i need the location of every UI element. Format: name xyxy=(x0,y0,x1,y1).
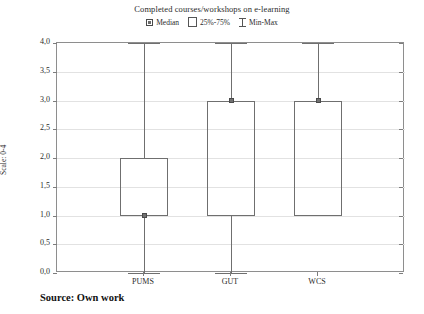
whisker-cap-max xyxy=(302,43,334,44)
median-marker-gut xyxy=(229,98,234,103)
whisker-upper xyxy=(144,43,145,158)
y-axis-title: Scale: 0-4 xyxy=(0,145,8,175)
y-axis-tick-right xyxy=(399,244,403,245)
y-axis-tick xyxy=(53,244,57,245)
y-axis-tick-right xyxy=(399,158,403,159)
whisker-lower xyxy=(144,216,145,274)
legend-label-minmax: Min-Max xyxy=(249,18,278,27)
whisker-ibeam-icon xyxy=(239,18,246,27)
y-axis-tick-right xyxy=(399,72,403,73)
y-axis-tick-label: 3,0 xyxy=(24,96,50,104)
figure-container: Completed courses/workshops on e-learnin… xyxy=(0,0,424,314)
whisker-cap-min xyxy=(215,273,247,274)
y-axis-tick xyxy=(53,158,57,159)
x-axis-tick xyxy=(230,272,231,276)
chart-title: Completed courses/workshops on e-learnin… xyxy=(0,4,424,14)
x-axis-tick xyxy=(317,272,318,276)
y-axis-tick xyxy=(53,129,57,130)
box-rectangle-icon xyxy=(188,17,197,27)
y-axis-tick-right xyxy=(399,129,403,130)
y-axis-tick-right xyxy=(399,43,403,44)
x-axis-tick xyxy=(143,272,144,276)
box-gut xyxy=(207,101,255,216)
median-marker-icon xyxy=(146,19,153,26)
whisker-cap-min xyxy=(128,273,160,274)
whisker-cap-max xyxy=(215,43,247,44)
y-axis-tick-label: 1,0 xyxy=(24,211,50,219)
chart-legend: Median 25%-75% Min-Max xyxy=(0,17,424,27)
whisker-lower xyxy=(231,216,232,274)
plot-area xyxy=(56,42,404,272)
y-axis-tick xyxy=(53,72,57,73)
y-axis-tick xyxy=(53,273,57,274)
whisker-upper xyxy=(231,43,232,101)
legend-label-quartiles: 25%-75% xyxy=(200,18,230,27)
median-marker-pums xyxy=(142,213,147,218)
y-axis-tick-right xyxy=(399,216,403,217)
x-axis-tick-label: WCS xyxy=(287,277,347,286)
y-axis-tick xyxy=(53,216,57,217)
y-axis-tick-label: 0,5 xyxy=(24,239,50,247)
y-axis-tick-right xyxy=(399,187,403,188)
whisker-upper xyxy=(318,43,319,101)
source-caption: Source: Own work xyxy=(40,292,124,303)
legend-item-median: Median xyxy=(146,18,179,27)
legend-item-minmax: Min-Max xyxy=(239,18,278,27)
legend-item-quartiles: 25%-75% xyxy=(188,17,230,27)
median-marker-wcs xyxy=(316,98,321,103)
y-axis-tick-label: 2,5 xyxy=(24,124,50,132)
box-wcs xyxy=(294,101,342,216)
y-axis-tick-label: 3,5 xyxy=(24,67,50,75)
y-axis-tick xyxy=(53,187,57,188)
y-axis-tick xyxy=(53,101,57,102)
y-axis-tick-label: 1,5 xyxy=(24,182,50,190)
y-axis-tick-label: 4,0 xyxy=(24,38,50,46)
y-axis-tick xyxy=(53,43,57,44)
y-axis-tick-right xyxy=(399,273,403,274)
whisker-cap-max xyxy=(128,43,160,44)
y-axis-tick-label: 2,0 xyxy=(24,153,50,161)
box-pums xyxy=(120,158,168,216)
y-axis-tick-right xyxy=(399,101,403,102)
x-axis-tick-label: GUT xyxy=(200,277,260,286)
x-axis-tick-label: PUMS xyxy=(113,277,173,286)
legend-label-median: Median xyxy=(156,18,179,27)
y-axis-tick-label: 0,0 xyxy=(24,268,50,276)
